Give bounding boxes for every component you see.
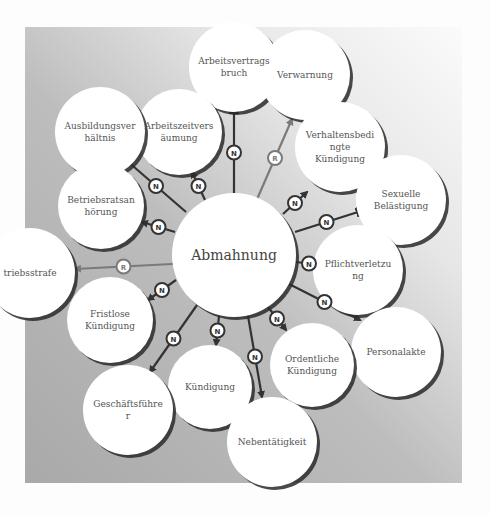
- edge-badges-layer: NRNNNNNNRNNNNNN: [0, 0, 491, 515]
- svg-text:R: R: [272, 155, 278, 163]
- edge-badge-arbeitsvertragsbruch: N: [227, 146, 241, 160]
- edge-badge-betriebsstrafe: R: [117, 260, 131, 274]
- svg-text:N: N: [159, 287, 165, 295]
- diagram-canvas: NRNNNNNNRNNNNNN Abmahnung Arbeitsvertrag…: [0, 0, 491, 515]
- edge-badge-betriebsratsanhoerung: N: [152, 220, 166, 234]
- edge-badge-personalakte: N: [318, 295, 332, 309]
- svg-text:N: N: [324, 219, 330, 227]
- svg-text:N: N: [196, 183, 202, 191]
- edge-badge-kuendigung: N: [211, 324, 225, 338]
- svg-text:N: N: [171, 336, 177, 344]
- edge-badge-ausbildungsverhaeltnis: N: [149, 179, 163, 193]
- svg-text:N: N: [322, 299, 328, 307]
- edge-badge-fristlose-kuendigung: N: [155, 283, 169, 297]
- svg-text:N: N: [153, 183, 159, 191]
- svg-text:N: N: [231, 150, 237, 158]
- svg-text:N: N: [292, 200, 298, 208]
- edge-badge-verwarnung: R: [268, 151, 282, 165]
- edge-badge-verhaltensbedingte-kuendigung: N: [288, 196, 302, 210]
- svg-text:N: N: [274, 316, 280, 324]
- edge-badge-nebentaetigkeit: N: [248, 350, 262, 364]
- edge-badge-arbeitszeitversaeumung: N: [192, 179, 206, 193]
- svg-text:N: N: [306, 261, 312, 269]
- svg-text:N: N: [252, 354, 258, 362]
- svg-text:N: N: [215, 328, 221, 336]
- edge-badge-geschaeftsfuehrer: N: [167, 332, 181, 346]
- edge-badge-pflichtverletzung: N: [302, 257, 316, 271]
- edge-badge-ordentliche-kuendigung: N: [270, 312, 284, 326]
- svg-text:R: R: [121, 264, 127, 272]
- svg-text:N: N: [156, 224, 162, 232]
- edge-badge-sexuelle-belaestigung: N: [320, 215, 334, 229]
